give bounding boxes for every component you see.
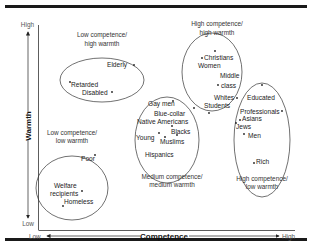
group-label-native-americans: Native Americans (137, 118, 189, 125)
group-label-poor: Poor (81, 155, 96, 162)
data-point (243, 133, 245, 135)
group-label-professionals: Professionals (240, 108, 280, 115)
group-label-women: Women (198, 62, 221, 69)
group-label-students: Students (204, 102, 231, 109)
group-label-middle: Middle (220, 72, 240, 79)
data-point (239, 119, 241, 121)
data-point (236, 97, 238, 99)
quadrant-label-line1: Low competence/ (47, 129, 97, 137)
data-point (133, 64, 135, 66)
x-axis-title: Competence (140, 232, 189, 241)
data-point (217, 84, 219, 86)
group-label-muslims: Muslims (160, 138, 185, 145)
quadrant-label-line1: Medium competence/ (141, 173, 202, 181)
y-tick-low: Low (22, 220, 34, 227)
quadrant-label-line2: low warmth (56, 137, 89, 144)
x-tick-high: High (282, 233, 296, 241)
group-label-men: Men (248, 132, 261, 139)
group-label-hispanics: Hispanics (145, 151, 174, 159)
data-point (253, 162, 255, 164)
cluster-low-competence-low-warmth: Low competence/ low warmth Poor Welfare … (36, 129, 108, 220)
group-label-rich: Rich (256, 158, 270, 165)
data-point (172, 100, 174, 102)
group-label-elderly: Elderly (107, 61, 128, 69)
group-label-recipients: recipients (50, 190, 79, 198)
quadrant-label-line2: low warmth (246, 183, 279, 190)
y-axis-title: Warmth (24, 111, 33, 141)
group-label-asians: Asians (242, 115, 262, 122)
quadrant-label-line1: High competence/ (191, 20, 243, 28)
group-label-christians: Christians (204, 54, 234, 61)
group-label-blacks: Blacks (171, 128, 191, 135)
cluster-high-competence-high-warmth: High competence/ high warmth Christians … (182, 20, 243, 114)
group-label-gay-men: Gay men (148, 100, 175, 108)
group-label-retarded: Retarded (71, 81, 98, 88)
data-point (214, 50, 216, 52)
group-label-disabled: Disabled (82, 89, 108, 96)
data-point (193, 107, 195, 109)
cluster-medium-competence-medium-warmth: Gay men Blue-collar Native Americans Bla… (135, 97, 203, 188)
data-point (171, 125, 173, 127)
data-point (261, 84, 263, 86)
x-tick-low: Low (29, 233, 41, 240)
group-label-class: class (221, 82, 237, 89)
data-point (111, 91, 113, 93)
group-label-welfare: Welfare (54, 182, 77, 189)
quadrant-label-line2: high warmth (85, 40, 120, 48)
data-point (158, 132, 160, 134)
group-label-educated: Educated (247, 94, 275, 101)
data-point (94, 154, 96, 156)
group-label-blue-collar: Blue-collar (154, 110, 186, 117)
quadrant-label-line1: High competence/ (236, 175, 288, 183)
data-point (69, 81, 71, 83)
cluster-low-competence-high-warmth: Low competence/ high warmth Elderly Reta… (60, 31, 144, 102)
quadrant-label-line2: high warmth (200, 29, 235, 37)
data-point (176, 134, 178, 136)
data-point (201, 57, 203, 59)
stereotype-content-diagram: Warmth High Low Competence Low High Low … (0, 0, 314, 247)
group-label-young: Young (136, 134, 155, 142)
group-label-whites: Whites (214, 94, 235, 101)
data-point (164, 136, 166, 138)
cluster-high-competence-low-warmth: Educated Professionals Asians Jews Men R… (234, 83, 290, 197)
group-label-jews: Jews (236, 123, 252, 130)
quadrant-label-line2: medium warmth (149, 181, 195, 188)
group-label-homeless: Homeless (64, 198, 94, 205)
data-point (62, 205, 64, 207)
data-point (81, 190, 83, 192)
data-point (208, 112, 210, 114)
data-point (281, 110, 283, 112)
quadrant-label-line1: Low competence/ (77, 31, 127, 39)
y-tick-high: High (21, 21, 35, 29)
